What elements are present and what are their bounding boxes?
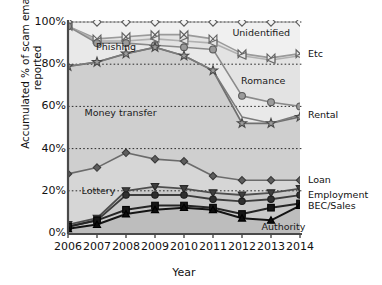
x-tick-label: 2011 bbox=[197, 240, 229, 253]
x-tick-label: 2006 bbox=[52, 240, 84, 253]
band-label: Authority bbox=[261, 222, 305, 232]
series-edge-label: Employment bbox=[308, 190, 368, 200]
x-tick-label: 2014 bbox=[284, 240, 316, 253]
band-label: Phishing bbox=[96, 42, 136, 52]
series-edge-label: Loan bbox=[308, 175, 331, 185]
chart-figure: Accumulated % of scam emails reported 10… bbox=[0, 0, 382, 285]
data-point bbox=[268, 196, 274, 202]
data-point bbox=[297, 192, 303, 198]
data-point bbox=[268, 204, 275, 211]
x-axis-title: Year bbox=[68, 266, 300, 279]
x-tick-label: 2007 bbox=[81, 240, 113, 253]
data-point bbox=[152, 192, 158, 198]
band-label: Romance bbox=[241, 76, 285, 86]
data-point bbox=[297, 103, 304, 110]
data-point bbox=[239, 92, 246, 99]
data-point bbox=[181, 192, 187, 198]
series-edge-label: Etc bbox=[308, 49, 323, 59]
data-point bbox=[210, 46, 217, 53]
band-label: Money transfer bbox=[85, 108, 157, 118]
data-point bbox=[210, 196, 216, 202]
x-tick-label: 2012 bbox=[226, 240, 258, 253]
band-label: Unidentified bbox=[232, 28, 290, 38]
x-tick-label: 2009 bbox=[139, 240, 171, 253]
x-tick-label: 2013 bbox=[255, 240, 287, 253]
data-point bbox=[268, 99, 275, 106]
data-point bbox=[239, 198, 245, 204]
x-tick-label: 2010 bbox=[168, 240, 200, 253]
series-edge-label: BEC/Sales bbox=[308, 201, 356, 211]
x-tick-label: 2008 bbox=[110, 240, 142, 253]
data-point bbox=[123, 192, 129, 198]
band-label: Lottery bbox=[82, 186, 116, 196]
series-edge-label: Rental bbox=[308, 110, 338, 120]
